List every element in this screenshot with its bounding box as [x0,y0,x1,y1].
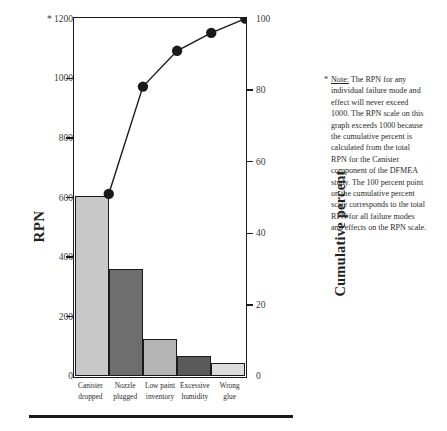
x-category-label-line: Low paint [143,381,178,392]
x-category-label-line: humidity [177,392,212,403]
y-tick-right-mark [247,89,253,90]
cumulative-percent-line [73,17,247,378]
x-category-label-line: Nozzle [108,381,143,392]
cumulative-line-path [109,19,246,194]
cumulative-marker-3 [172,46,182,56]
cumulative-marker-1 [104,189,114,199]
x-category-label-5: Wrongglue [212,381,247,411]
y-tick-left-label: 0 [31,371,73,381]
y-tick-left-mark [66,197,73,198]
pareto-chart-figure: RPN * 120010008006004002000 100806040200… [0,0,447,431]
footnote-lead: Note: [331,75,349,84]
x-category-label-3: Low paintinventory [143,381,178,411]
y-tick-left-mark [66,256,73,257]
cumulative-marker-4 [206,28,216,38]
x-category-label-line: Wrong [212,381,247,392]
x-category-label-1: Canisterdropped [73,381,108,411]
footnote-asterisk: * [324,74,328,85]
y-tick-right-mark [247,161,253,162]
y-tick-right-mark [247,233,253,234]
y-tick-right-label: 80 [256,85,266,95]
x-category-label-4: Excessivehumidity [177,381,212,411]
cumulative-marker-2 [138,81,148,91]
y-tick-left-mark [66,78,73,79]
x-axis-category-labels: CanisterdroppedNozzlepluggedLow paintinv… [73,381,247,411]
y-tick-right-label: 40 [256,228,266,238]
footnote-block: *Note: The RPN for any individual failur… [331,74,427,234]
y-tick-left-mark [66,137,73,138]
y-tick-right-label: 100 [256,14,270,24]
x-category-label-line: Canister [73,381,108,392]
x-category-label-line: plugged [108,392,143,403]
footnote-text: The RPN for any individual failure mode … [331,75,426,232]
bottom-divider-rule [29,415,293,418]
y-tick-right-label: 0 [256,371,261,381]
x-category-label-2: Nozzleplugged [108,381,143,411]
x-category-label-line: Excessive [177,381,212,392]
cumulative-marker-5 [240,17,247,24]
y-tick-left-mark [66,316,73,317]
y-tick-right-label: 60 [256,157,266,167]
y-tick-left-label: * 1200 [31,14,73,24]
y-tick-right-label: 20 [256,300,266,310]
y-tick-right-mark [247,304,253,305]
x-category-label-line: inventory [143,392,178,403]
x-category-label-line: dropped [73,392,108,403]
x-category-label-line: glue [212,392,247,403]
